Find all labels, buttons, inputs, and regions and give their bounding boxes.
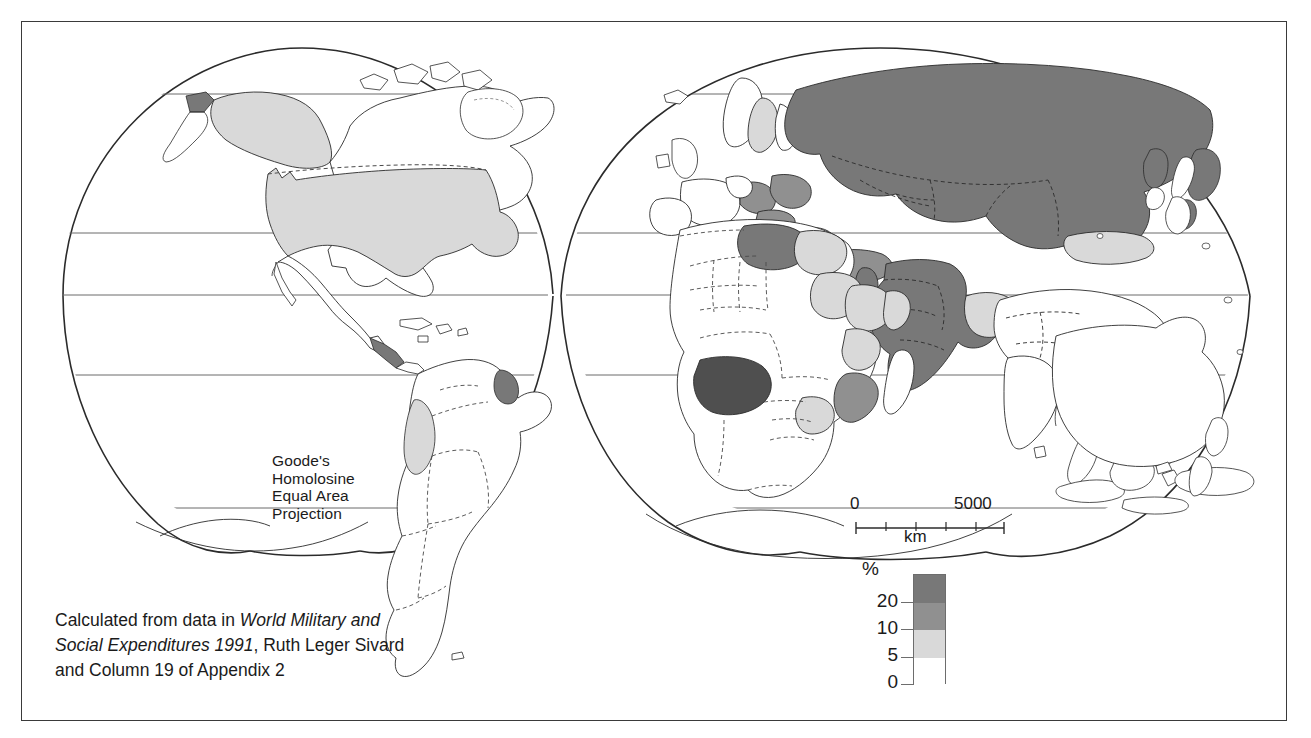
region-alaska-main (211, 92, 332, 168)
legend-unit-symbol: % (862, 558, 879, 580)
cuba (400, 318, 432, 330)
hispaniola (436, 324, 452, 334)
western-hemisphere-lobe (60, 48, 560, 677)
caption-part-3: and Column 19 of Appendix 2 (55, 660, 285, 680)
region-india (1004, 356, 1060, 449)
region-angola (694, 357, 772, 415)
region-alaska (186, 92, 214, 112)
scale-units-label: km (904, 527, 927, 547)
legend-tick-5 (901, 657, 914, 658)
scale-max-label: 5000 (954, 494, 992, 514)
legend-label-10: 10 (856, 617, 898, 639)
caption-italic-1: World Military and (240, 610, 380, 630)
arctic-island (360, 74, 388, 90)
caption-part-2: , Ruth Leger Sivard (253, 635, 404, 655)
antarctica-east-coast (676, 510, 844, 526)
map-figure: Goode's Homolosine Equal Area Projection… (0, 0, 1311, 738)
legend-tick-0 (901, 684, 914, 685)
legend-tick-10 (901, 629, 914, 630)
region-south-korea (1146, 188, 1164, 210)
legend-label-20: 20 (856, 590, 898, 612)
antarctica-west (136, 522, 368, 551)
madagascar (884, 350, 914, 414)
scale-min-label: 0 (850, 494, 859, 514)
java (1122, 497, 1188, 514)
region-mongolia (1064, 232, 1154, 265)
caption-italic-2: Social Expenditures 1991 (55, 635, 253, 655)
legend-band-0-5 (914, 658, 945, 686)
region-united-states (266, 168, 518, 277)
source-caption: Calculated from data in World Military a… (55, 608, 575, 683)
eastern-hemisphere-lobe (560, 48, 1260, 560)
aleutians (163, 112, 208, 162)
region-zimbabwe (796, 397, 835, 434)
legend: % 20 10 5 0 (852, 558, 962, 693)
region-poland (770, 174, 811, 208)
caption-part-1: Calculated from data in (55, 610, 240, 630)
great-britain (672, 138, 698, 178)
region-egypt (794, 230, 846, 274)
arctic-island (430, 62, 460, 82)
legend-tick-20 (901, 602, 914, 603)
new-guinea (1175, 468, 1254, 496)
sri-lanka (1034, 446, 1046, 458)
iceland (664, 90, 688, 104)
legend-band-over-20 (914, 575, 945, 603)
legend-band-10-20 (914, 603, 945, 631)
antarctica-west-coast (160, 519, 270, 536)
region-nicaragua (370, 338, 404, 368)
legend-swatch-column (913, 574, 946, 684)
projection-note: Goode's Homolosine Equal Area Projection (272, 452, 355, 522)
ireland (656, 154, 670, 168)
jamaica (418, 336, 428, 342)
baja-peninsula (274, 262, 296, 306)
legend-band-5-10 (914, 630, 945, 658)
legend-label-0: 0 (856, 671, 898, 693)
legend-label-5: 5 (856, 644, 898, 666)
region-mozambique (834, 373, 878, 422)
puerto-rico (458, 328, 468, 336)
scale-bar: 0 5000 km (846, 494, 1026, 550)
